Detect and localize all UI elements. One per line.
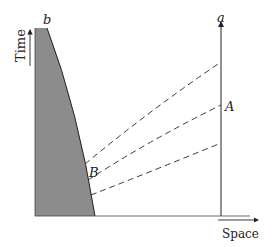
dashed-curve-lower bbox=[91, 143, 221, 195]
spacetime-diagram: Time Space b a A B bbox=[0, 0, 279, 247]
label-a: a bbox=[217, 10, 225, 25]
time-axis-label: Time bbox=[13, 29, 28, 62]
dashed-curve-upper bbox=[85, 62, 221, 164]
dashed-curve-middle bbox=[88, 105, 221, 180]
label-b: b bbox=[43, 12, 51, 27]
shaded-region-b bbox=[35, 28, 95, 216]
space-axis-label: Space bbox=[222, 227, 259, 241]
label-A: A bbox=[224, 99, 234, 114]
label-B: B bbox=[88, 165, 99, 180]
